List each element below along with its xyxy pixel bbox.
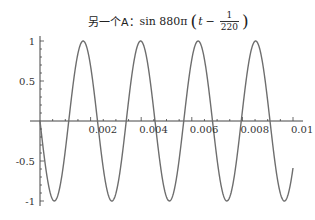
x-tick-label: 0.008 <box>240 124 269 135</box>
chart-title: 另一个A： sin 880π ( t − 1 220 ) <box>88 8 250 34</box>
title-open-paren: ( <box>191 13 198 30</box>
title-close-paren: ) <box>242 13 249 30</box>
fraction-denominator: 220 <box>220 21 239 32</box>
y-tick-label: 0.5 <box>19 76 35 87</box>
title-fraction: 1 220 <box>220 11 239 32</box>
fraction-numerator: 1 <box>226 11 234 21</box>
y-tick-label: 1 <box>29 36 35 47</box>
title-variable: t <box>198 15 202 28</box>
y-tick-label: -0.5 <box>16 156 35 167</box>
x-tick-label: 0.002 <box>89 124 118 135</box>
title-minus: − <box>206 15 215 28</box>
x-tick-label: 0.006 <box>190 124 219 135</box>
x-tick-label: 0.01 <box>291 124 313 135</box>
title-prefix: 另一个A： <box>88 13 140 29</box>
x-tick-label: 0.004 <box>139 124 168 135</box>
y-tick-label: -1 <box>25 196 35 207</box>
title-function: sin 880π <box>140 15 188 28</box>
